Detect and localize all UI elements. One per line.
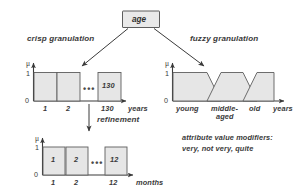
bar-label-month-12: 12: [110, 156, 118, 164]
bar-crisp-1: [34, 73, 57, 102]
xtick-aged: aged: [216, 113, 234, 121]
bar-label-month-1: 1: [51, 156, 55, 164]
ytick-zero-fuzzy-years: 0: [164, 96, 168, 105]
mu-axis-label-crisp-years: μ: [26, 59, 30, 68]
xtick-1-crisp-years: 1: [43, 105, 47, 113]
note-line-1: attribute value modifiers:: [182, 134, 273, 142]
diagram-vector-layer: [0, 0, 306, 196]
ytick-one-crisp-years: 1: [26, 69, 30, 78]
bar-label-month-2: 2: [74, 156, 78, 164]
xtick-old: old: [249, 105, 260, 113]
xtick-130-crisp-years: 130: [101, 105, 114, 113]
ytick-zero-crisp-months: 0: [34, 170, 38, 179]
xaxis-label-years-left: years: [128, 105, 148, 113]
xtick-1-crisp-months: 1: [51, 179, 55, 187]
chart-fuzzy-years: [173, 63, 285, 101]
xtick-12-crisp-months: 12: [109, 179, 117, 187]
xtick-young: young: [176, 105, 199, 113]
refinement-label: refinement: [97, 115, 139, 124]
note-line-2: very, not very, quite: [182, 145, 253, 153]
age-node-label: age: [132, 15, 146, 24]
mu-axis-label-fuzzy-years: μ: [165, 59, 169, 68]
xtick-2-crisp-years: 2: [66, 105, 70, 113]
ellipsis-crisp-months: •••: [91, 158, 103, 168]
ytick-zero-crisp-years: 0: [25, 96, 29, 105]
ellipsis-crisp-years: •••: [83, 84, 95, 94]
ytick-one-fuzzy-years: 1: [165, 69, 169, 78]
diagram-canvas: age crisp granulation fuzzy granulation …: [0, 0, 306, 196]
bar-value-130: 130: [102, 82, 115, 90]
xaxis-label-years-right: years: [273, 105, 293, 113]
fuzzy-granulation-label: fuzzy granulation: [190, 34, 258, 43]
xaxis-label-months: months: [136, 179, 163, 187]
xtick-2-crisp-months: 2: [74, 179, 78, 187]
mu-axis-label-crisp-months: μ: [35, 134, 39, 143]
ytick-one-crisp-months: 1: [35, 143, 39, 152]
crisp-granulation-label: crisp granulation: [27, 34, 94, 43]
bar-crisp-2: [57, 73, 80, 102]
chart-crisp-months: [43, 138, 134, 175]
